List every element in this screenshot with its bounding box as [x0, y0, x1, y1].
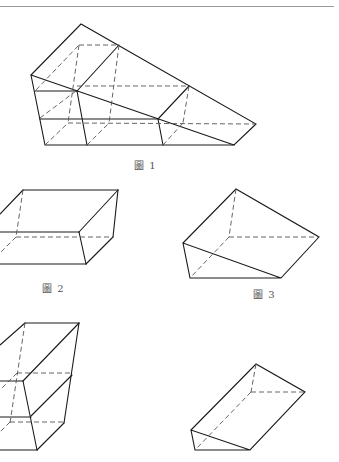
figure-3: [183, 189, 319, 278]
figure-1: [31, 24, 256, 145]
caption-figure-3: 圖 3: [253, 286, 276, 301]
figure-5: [191, 364, 305, 450]
caption-figure-1: 圖 1: [134, 157, 157, 172]
caption-figure-2: 圖 2: [42, 280, 65, 295]
geometry-diagram: [0, 0, 339, 462]
figure-2: [0, 190, 118, 264]
figure-4: [0, 323, 79, 450]
